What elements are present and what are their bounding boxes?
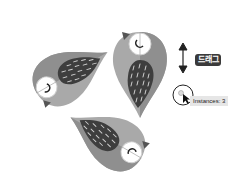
instances-tooltip: Instances: 3 (190, 96, 228, 106)
canvas[interactable]: 드래그 Instances: 3 (0, 0, 240, 191)
bird-instance-2 (24, 30, 120, 115)
up-down-arrow-icon (179, 43, 187, 73)
drag-label-badge: 드래그 (195, 54, 221, 66)
bird-instance-1 (113, 32, 167, 118)
